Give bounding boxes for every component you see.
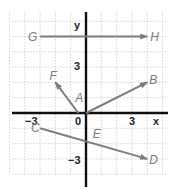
point-label-d: D (149, 153, 158, 167)
point-labels: GHFBACDE (28, 30, 159, 167)
tick-label-y-pos: 3 (74, 60, 80, 72)
point-label-h: H (150, 30, 159, 44)
point-label-a: A (74, 91, 83, 105)
tick-label-y-neg: −3 (68, 154, 81, 166)
point-label-e: E (93, 127, 102, 141)
tick-label-origin: 0 (75, 115, 81, 127)
coordinate-plane: y x −3 0 3 3 −3 GHFBACDE (0, 0, 177, 188)
point-label-c: C (31, 121, 40, 135)
point-label-b: B (149, 73, 157, 87)
tick-label-x-pos: 3 (129, 115, 135, 127)
y-axis-label: y (74, 19, 81, 31)
point-label-f: F (49, 69, 57, 83)
x-axis-label: x (153, 115, 160, 127)
point-label-g: G (28, 30, 37, 44)
